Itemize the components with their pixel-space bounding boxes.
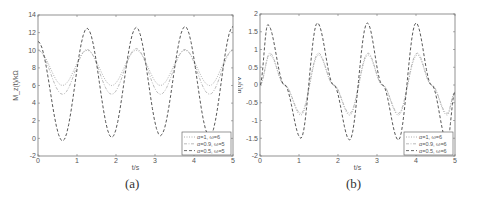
y-tick-label: 0 <box>32 135 36 142</box>
legend-entry: α=1, ω=6 <box>419 134 442 140</box>
caption-b: (b) <box>346 176 361 192</box>
x-axis-label: t/s <box>354 164 362 171</box>
x-tick-label: 4 <box>414 157 418 164</box>
x-tick-label: 2 <box>114 157 118 164</box>
y-tick-label: -1.5 <box>246 135 258 142</box>
y-tick-label: 4 <box>32 99 36 106</box>
series-line <box>260 53 455 113</box>
series-line <box>260 23 455 142</box>
x-tick-label: 5 <box>231 157 235 164</box>
x-tick-label: 4 <box>192 157 196 164</box>
y-tick-label: 2 <box>254 10 258 17</box>
x-tick-label: 5 <box>453 157 457 164</box>
y-tick-label: -2 <box>252 152 258 159</box>
x-tick-label: 0 <box>258 157 262 164</box>
y-tick-label: 10 <box>28 47 36 54</box>
legend-entry: α=0.5, ω=5 <box>197 148 225 154</box>
caption-a: (a) <box>125 176 139 192</box>
legend: α=1, ω=6α=0.9, ω=5α=0.5, ω=5 <box>182 132 231 155</box>
y-axis-label: u(t)/V <box>238 76 243 93</box>
chart-b: 012345-2-1.5-1-0.500.511.52t/su(t)/Vα=1,… <box>238 0 477 175</box>
y-tick-label: -1 <box>252 117 258 124</box>
legend-entry: α=1, ω=6 <box>197 134 220 140</box>
legend-entry: α=0.9, ω=6 <box>419 141 447 147</box>
y-tick-label: 0 <box>254 81 258 88</box>
y-axis-label: M_z(t)/kΩ <box>12 70 20 101</box>
series-line <box>38 48 233 94</box>
y-tick-label: 0.5 <box>248 64 258 71</box>
legend-entry: α=0.5, ω=6 <box>419 148 447 154</box>
x-tick-label: 3 <box>375 157 379 164</box>
series-line <box>38 26 233 141</box>
y-tick-label: 6 <box>32 82 36 89</box>
y-tick-label: -2 <box>30 152 36 159</box>
y-tick-label: 1.5 <box>248 28 258 35</box>
panel-b: 012345-2-1.5-1-0.500.511.52t/su(t)/Vα=1,… <box>238 0 477 175</box>
series-line <box>38 50 233 85</box>
panel-a: 012345-202468101214t/sM_z(t)/kΩα=1, ω=6α… <box>0 0 238 175</box>
legend-entry: α=0.9, ω=5 <box>197 141 225 147</box>
x-tick-label: 0 <box>36 157 40 164</box>
x-tick-label: 2 <box>336 157 340 164</box>
x-tick-label: 1 <box>297 157 301 164</box>
x-tick-label: 3 <box>153 157 157 164</box>
chart-a: 012345-202468101214t/sM_z(t)/kΩα=1, ω=6α… <box>0 0 238 175</box>
y-tick-label: 8 <box>32 64 36 71</box>
x-axis-label: t/s <box>132 164 140 171</box>
x-tick-label: 1 <box>75 157 79 164</box>
legend: α=1, ω=6α=0.9, ω=6α=0.5, ω=6 <box>404 132 453 155</box>
y-tick-label: 14 <box>28 11 36 18</box>
y-tick-label: 2 <box>32 117 36 124</box>
y-tick-label: -0.5 <box>246 99 258 106</box>
y-tick-label: 1 <box>254 46 258 53</box>
y-tick-label: 12 <box>28 29 36 36</box>
